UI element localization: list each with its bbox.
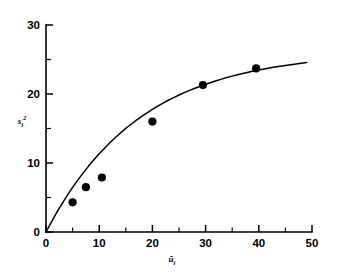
x-tick-label-20: 20 [146, 237, 159, 249]
x-tick-label-50: 50 [306, 237, 319, 249]
figure-container: 0 10 20 30 0 10 20 30 40 50 si2 ūi [0, 0, 338, 272]
x-axis-label: ūi [169, 254, 176, 266]
x-axis-tick-labels: 0 10 20 30 40 50 [43, 237, 319, 249]
data-point [69, 198, 77, 206]
data-point [98, 173, 106, 181]
scatter-plot: 0 10 20 30 0 10 20 30 40 50 si2 ūi [0, 0, 338, 272]
x-tick-label-0: 0 [43, 237, 49, 249]
x-tick-label-10: 10 [93, 237, 106, 249]
x-axis [46, 225, 312, 232]
fit-curve [46, 63, 307, 232]
y-tick-label-10: 10 [27, 157, 40, 169]
x-tick-label-40: 40 [252, 237, 265, 249]
x-axis-label-subscript: i [174, 259, 176, 266]
y-tick-label-0: 0 [34, 226, 40, 238]
data-point [252, 64, 260, 72]
y-tick-label-20: 20 [27, 88, 40, 100]
x-tick-label-30: 30 [199, 237, 212, 249]
data-point [82, 183, 90, 191]
data-point [148, 118, 156, 126]
y-axis-label: si2 [17, 114, 27, 128]
data-point [199, 81, 207, 89]
y-axis-tick-labels: 0 10 20 30 [27, 19, 40, 238]
data-points [69, 64, 261, 206]
y-axis-label-superscript: 2 [22, 114, 27, 121]
y-axis [46, 25, 53, 232]
y-tick-label-30: 30 [27, 19, 40, 31]
y-axis-label-subscript: i [21, 121, 23, 128]
